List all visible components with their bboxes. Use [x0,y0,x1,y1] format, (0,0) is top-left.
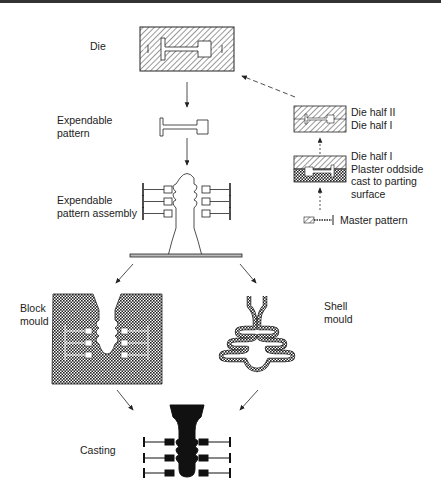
label-pattern-assembly: Expendable pattern assembly [57,194,137,219]
label-master-pattern: Master pattern [340,214,408,227]
block-mould-drawing [52,294,162,384]
pattern-assembly-drawing [130,174,242,258]
casting-drawing [144,405,230,478]
master-pattern-drawing [304,215,333,225]
label-plaster-oddside: Die half I Plaster oddside cast to parti… [351,150,423,200]
expendable-pattern-drawing [160,118,208,136]
shell-mould-texture [221,296,293,370]
arrow-to-shell-mould [240,264,256,283]
arrow-die-halves-to-die [242,76,295,97]
label-expendable-pattern: Expendable pattern [57,114,112,139]
arrow-shell-to-casting [240,390,258,410]
label-shell-mould: Shell mould [324,300,353,325]
label-die: Die [90,40,106,53]
arrow-to-block-mould [116,264,133,283]
label-die-halves: Die half II Die half I [351,106,395,131]
die-drawing [140,27,234,71]
plaster-oddside-drawing [294,156,346,182]
process-diagram [0,0,441,504]
label-block-mould: Block mould [20,302,49,327]
arrow-block-to-casting [117,390,133,410]
label-casting: Casting [80,444,116,457]
die-halves-drawing [294,106,346,132]
